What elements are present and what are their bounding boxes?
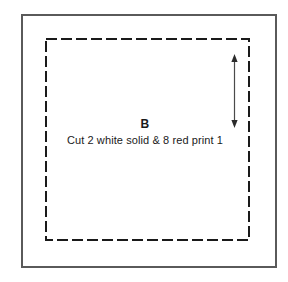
piece-letter: B <box>30 118 260 132</box>
arrow-head-up-icon <box>231 54 237 62</box>
cut-instructions-text: Cut 2 white solid & 8 red print 1 <box>30 134 260 147</box>
piece-label-block: B Cut 2 white solid & 8 red print 1 <box>30 118 260 146</box>
pattern-diagram-canvas: B Cut 2 white solid & 8 red print 1 <box>0 0 288 282</box>
